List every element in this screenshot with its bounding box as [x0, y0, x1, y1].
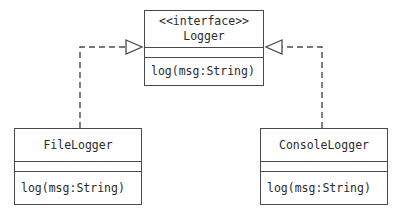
consolelogger-attributes-compartment: [261, 162, 387, 172]
filelogger-operations-compartment: log(msg:String): [15, 172, 141, 204]
hollow-triangle-arrowhead-icon: [126, 40, 142, 54]
consolelogger-name-compartment: ConsoleLogger: [261, 129, 387, 162]
hollow-triangle-arrowhead-icon: [266, 40, 282, 54]
logger-attributes-compartment: [145, 48, 263, 58]
filelogger-name-compartment: FileLogger: [15, 129, 141, 162]
uml-interface-logger[interactable]: <<interface>> Logger log(msg:String): [144, 10, 264, 86]
consolelogger-operation: log(msg:String): [261, 181, 387, 196]
uml-class-consolelogger[interactable]: ConsoleLogger log(msg:String): [260, 128, 388, 205]
consolelogger-operations-compartment: log(msg:String): [261, 172, 387, 204]
edge-filelogger-line: [80, 47, 126, 128]
filelogger-name: FileLogger: [43, 138, 112, 153]
logger-name: Logger: [183, 29, 225, 44]
edge-consolelogger-realizes-logger[interactable]: [266, 40, 322, 128]
filelogger-operation: log(msg:String): [15, 181, 141, 196]
logger-name-compartment: <<interface>> Logger: [145, 11, 263, 48]
logger-stereotype: <<interface>>: [159, 14, 249, 29]
consolelogger-name: ConsoleLogger: [279, 138, 369, 153]
edge-consolelogger-line: [282, 47, 322, 128]
logger-operation: log(msg:String): [145, 64, 263, 79]
uml-diagram-canvas: <<interface>> Logger log(msg:String) Fil…: [0, 0, 398, 222]
filelogger-attributes-compartment: [15, 162, 141, 172]
uml-class-filelogger[interactable]: FileLogger log(msg:String): [14, 128, 142, 205]
logger-operations-compartment: log(msg:String): [145, 58, 263, 85]
edge-filelogger-realizes-logger[interactable]: [80, 40, 142, 128]
